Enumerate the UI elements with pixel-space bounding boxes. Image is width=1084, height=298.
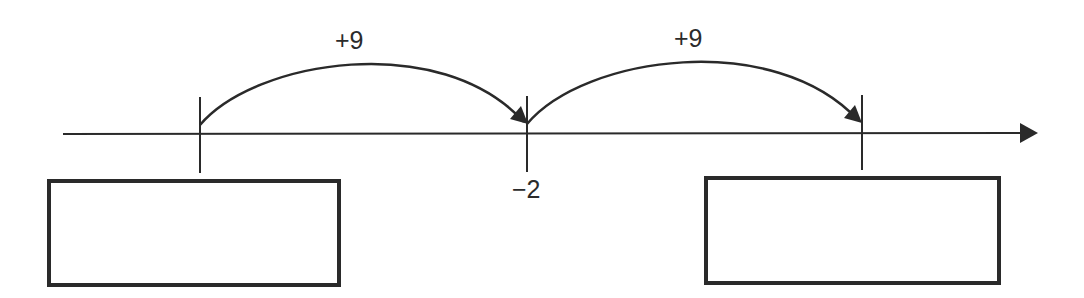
answer-box-left[interactable]: [47, 179, 341, 287]
jump-label-1: +9: [335, 28, 364, 53]
jump-arc-1: [200, 64, 524, 125]
jump-label-2: +9: [674, 26, 703, 51]
jump-arc-2: [527, 62, 858, 124]
tick-label-middle: −2: [512, 177, 541, 202]
number-line: [63, 123, 1038, 143]
answer-box-right[interactable]: [704, 176, 1001, 285]
jump-arrow-icon-1: [510, 106, 528, 124]
axis-arrow-icon: [1020, 123, 1038, 143]
